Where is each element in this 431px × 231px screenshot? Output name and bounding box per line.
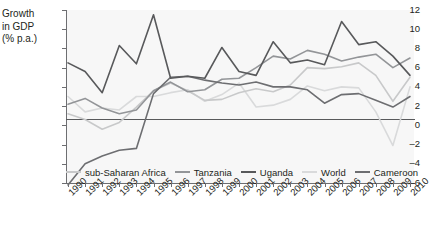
legend-swatch-icon bbox=[241, 171, 256, 173]
legend-label: World bbox=[321, 167, 346, 178]
series-line bbox=[68, 50, 410, 113]
legend-swatch-icon bbox=[355, 171, 370, 173]
legend-label: Uganda bbox=[260, 167, 293, 178]
series-line bbox=[68, 15, 410, 93]
legend-label: Cameroon bbox=[374, 167, 418, 178]
y-axis-title-line-3: (% p.a.) bbox=[2, 33, 64, 46]
series-line bbox=[68, 63, 410, 129]
legend-swatch-icon bbox=[66, 171, 81, 173]
y-axis-title-line-1: Growth bbox=[2, 8, 64, 21]
series-lines bbox=[66, 10, 414, 183]
y-tick-mark bbox=[62, 183, 66, 184]
legend-item[interactable]: sub-Saharan Africa bbox=[66, 167, 166, 178]
legend-swatch-icon bbox=[302, 171, 317, 173]
legend-item[interactable]: Cameroon bbox=[355, 167, 418, 178]
legend-item[interactable]: Uganda bbox=[241, 167, 293, 178]
legend-swatch-icon bbox=[175, 171, 190, 173]
legend-label: Tanzania bbox=[194, 167, 232, 178]
y-axis-title: Growth in GDP (% p.a.) bbox=[2, 8, 64, 46]
legend-item[interactable]: World bbox=[302, 167, 346, 178]
chart-legend: sub-Saharan AfricaTanzaniaUgandaWorldCam… bbox=[66, 165, 414, 179]
y-axis-title-line-2: in GDP bbox=[2, 21, 64, 34]
legend-item[interactable]: Tanzania bbox=[175, 167, 232, 178]
legend-label: sub-Saharan Africa bbox=[85, 167, 166, 178]
